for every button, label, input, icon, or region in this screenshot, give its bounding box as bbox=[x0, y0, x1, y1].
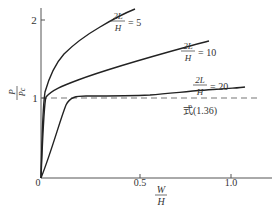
annotation-20-value: = 20 bbox=[210, 81, 228, 92]
chart-canvas: 2 1 0 0.5 1.0 P Pc W H 2L H = 5 2L H = 1… bbox=[0, 0, 279, 211]
y-label-denominator: Pc bbox=[18, 87, 27, 97]
y-label-numerator: P bbox=[7, 89, 17, 96]
x-tick-label-05: 0.5 bbox=[134, 177, 147, 188]
annotation-2L-H-5: 2L H = 5 bbox=[111, 11, 141, 33]
annotation-10-denominator: H bbox=[184, 53, 192, 63]
annotation-5-numerator: 2L bbox=[113, 11, 123, 21]
x-tick-label-0: 0 bbox=[36, 177, 41, 188]
annotation-20-denominator: H bbox=[196, 87, 204, 97]
x-label-denominator: H bbox=[156, 196, 165, 207]
x-tick-label-10: 1.0 bbox=[225, 177, 238, 188]
annotation-2L-H-20: 2L H = 20 bbox=[193, 75, 228, 97]
y-tick-label-2: 2 bbox=[31, 14, 37, 26]
y-axis-label: P Pc bbox=[7, 86, 27, 100]
annotation-10-value: = 10 bbox=[198, 47, 216, 58]
annotation-20-numerator: 2L bbox=[195, 75, 205, 85]
annotation-eq-1-36: 式(1.36) bbox=[183, 104, 217, 117]
y-tick-label-1: 1 bbox=[32, 92, 38, 104]
annotation-10-numerator: 2L bbox=[183, 41, 193, 51]
annotation-5-value: = 5 bbox=[128, 17, 141, 28]
x-axis-label: W H bbox=[155, 184, 167, 207]
series-2L-H-20 bbox=[41, 87, 245, 178]
x-label-numerator: W bbox=[157, 184, 167, 195]
annotation-5-denominator: H bbox=[114, 23, 122, 33]
series-2L-H-5 bbox=[41, 9, 135, 178]
